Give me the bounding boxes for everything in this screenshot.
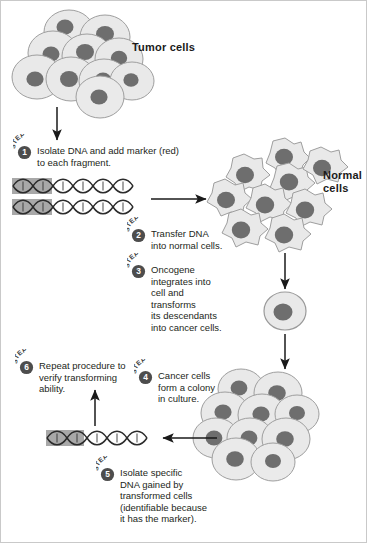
- step-badge-5: STEP 5: [96, 456, 122, 482]
- label-normal-cells: Normal cells: [323, 169, 362, 194]
- step-6-text: Repeat procedure to verify transforming …: [39, 360, 144, 395]
- step-1-text: Isolate DNA and add marker (red) to each…: [37, 145, 222, 168]
- tumor-cell-cluster: [12, 10, 154, 118]
- step-number-2: 2: [136, 230, 141, 240]
- step-4-text: Cancer cells form a colony in culture.: [158, 370, 246, 405]
- step-badge-2: STEP 2: [127, 217, 153, 243]
- single-transformed-cell: [264, 292, 306, 330]
- step-badge-3: STEP 3: [127, 253, 153, 279]
- step-number-3: 3: [136, 266, 141, 276]
- step-number-5: 5: [105, 469, 110, 479]
- dna-fragments-marked: [12, 178, 133, 215]
- label-tumor-cells: Tumor cells: [132, 41, 195, 54]
- diagram-canvas: STEP 1 STEP 2 STEP 3 ST: [0, 0, 367, 543]
- step-badge-1: STEP 1: [13, 134, 39, 160]
- step-number-6: 6: [24, 362, 29, 372]
- step-5-text: Isolate specific DNA gained by transform…: [120, 467, 250, 525]
- step-number-1: 1: [22, 147, 27, 157]
- dna-fragment-recovered: [46, 430, 147, 446]
- step-badge-6: STEP 6: [15, 349, 41, 375]
- step-2-text: Transfer DNA into normal cells.: [151, 228, 256, 251]
- step-3-text: Oncogene integrates into cell and transf…: [151, 264, 243, 333]
